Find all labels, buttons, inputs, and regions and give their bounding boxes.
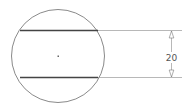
arrowhead-up-icon — [169, 31, 174, 38]
arrowhead-down-icon — [169, 70, 174, 77]
dimension-label: 20 — [166, 53, 178, 63]
drawing-canvas: 20 — [0, 0, 185, 108]
center-point — [58, 56, 60, 58]
